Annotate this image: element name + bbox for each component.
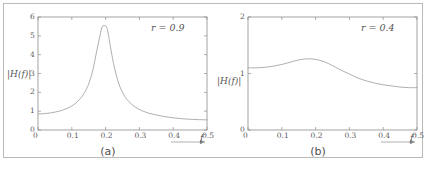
parameter-label-a: r = 0.9: [151, 22, 185, 33]
caption-a: (a): [3, 145, 213, 158]
panel-b: |H(f)| f r = 0.4 (b) 00.10.20.30.40.5012: [213, 3, 423, 158]
y-tick-label: 2: [240, 12, 245, 21]
y-tick-label: 1: [240, 69, 245, 78]
panel-a: |H(f)| f r = 0.9 (a) 00.10.20.30.40.5012…: [3, 3, 213, 158]
x-tick-label: 0.1: [67, 131, 79, 140]
y-tick-label: 6: [30, 12, 35, 21]
x-tick-label: 0.2: [311, 131, 323, 140]
x-tick-label: 0.4: [378, 131, 390, 140]
parameter-label-b: r = 0.4: [361, 22, 395, 33]
y-tick-label: 4: [30, 50, 35, 59]
x-tick-label: 0.5: [412, 131, 424, 140]
y-tick-label: 3: [30, 69, 35, 78]
figure-container: |H(f)| f r = 0.9 (a) 00.10.20.30.40.5012…: [0, 0, 428, 179]
y-tick-label: 2: [30, 87, 35, 96]
x-tick-label: 0.4: [168, 131, 180, 140]
y-axis-label-b: |H(f)|: [217, 76, 241, 86]
x-tick-label: 0.1: [277, 131, 289, 140]
y-tick-label: 1: [30, 106, 35, 115]
y-tick-label: 5: [30, 31, 35, 40]
y-axis-label-a: |H(f)|: [7, 69, 31, 79]
y-tick-label: 0: [30, 125, 35, 134]
caption-b: (b): [213, 145, 423, 158]
y-tick-label: 0: [240, 125, 245, 134]
x-tick-label: 0.2: [101, 131, 113, 140]
x-tick-label: 0.3: [344, 131, 356, 140]
x-tick-label: 0.3: [134, 131, 146, 140]
